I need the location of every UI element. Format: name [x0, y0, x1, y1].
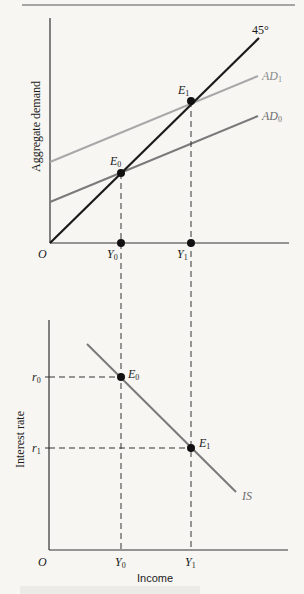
- is-curve-label: IS: [242, 490, 252, 502]
- y0-lower-label-sub: 0: [122, 561, 126, 570]
- y1-lower-label-main: Y: [185, 555, 192, 569]
- e0-upper-label-sub: 0: [117, 160, 121, 169]
- ad1-label-main: AD: [262, 69, 278, 83]
- lower-panel: [45, 320, 288, 550]
- ad1-label: AD1: [262, 70, 282, 84]
- is-curve: [87, 344, 236, 492]
- ad1-label-sub: 1: [278, 75, 282, 84]
- figure-caption-cutoff: [20, 586, 200, 594]
- lower-x-axis-title: Income: [137, 572, 173, 584]
- ad0-label-main: AD: [262, 109, 278, 123]
- is-derivation-figure: Aggregate demand O 45° AD1 AD0 E1 E0 Y0 …: [0, 0, 304, 594]
- ad0-label: AD0: [262, 110, 282, 124]
- e1-upper-point: [187, 97, 195, 105]
- e0-upper-label: E0: [110, 155, 121, 169]
- y0-upper-label-main: Y: [107, 247, 114, 261]
- y1-upper-label-main: Y: [177, 247, 184, 261]
- y1-upper-label: Y1: [177, 248, 188, 262]
- e1-upper-label: E1: [178, 84, 189, 98]
- ad0-line: [50, 116, 258, 202]
- e1-lower-point: [187, 444, 195, 452]
- r1-label: r1: [32, 442, 41, 456]
- line-45-degree: [50, 38, 259, 243]
- y0-upper-label-sub: 0: [114, 253, 118, 262]
- y1-upper-label-sub: 1: [184, 253, 188, 262]
- y0-axis-point: [117, 239, 125, 247]
- y0-lower-label-main: Y: [115, 555, 122, 569]
- y0-upper-label: Y0: [107, 248, 118, 262]
- y0-lower-label: Y0: [115, 556, 126, 570]
- e0-upper-point: [117, 169, 125, 177]
- e1-lower-label-sub: 1: [206, 442, 210, 451]
- upper-origin-label: O: [38, 248, 47, 260]
- y1-lower-label: Y1: [185, 556, 196, 570]
- r1-label-sub: 1: [37, 447, 41, 456]
- upper-panel: [50, 18, 289, 550]
- e0-lower-point: [117, 373, 125, 381]
- figure-graphics: [0, 0, 304, 594]
- ad0-label-sub: 0: [278, 115, 282, 124]
- lower-origin-label: O: [38, 556, 47, 568]
- lower-y-axis-title: Interest rate: [13, 411, 28, 468]
- r0-label-sub: 0: [37, 376, 41, 385]
- y1-lower-label-sub: 1: [192, 561, 196, 570]
- upper-y-axis-title: Aggregate demand: [29, 81, 44, 172]
- e0-lower-label-sub: 0: [135, 373, 139, 382]
- e0-lower-label: E0: [128, 368, 139, 382]
- r0-label: r0: [32, 371, 41, 385]
- e1-upper-label-sub: 1: [185, 89, 189, 98]
- ad1-line: [50, 76, 258, 162]
- y1-axis-point: [187, 239, 195, 247]
- line-45-label: 45°: [252, 24, 269, 36]
- e1-lower-label: E1: [199, 437, 210, 451]
